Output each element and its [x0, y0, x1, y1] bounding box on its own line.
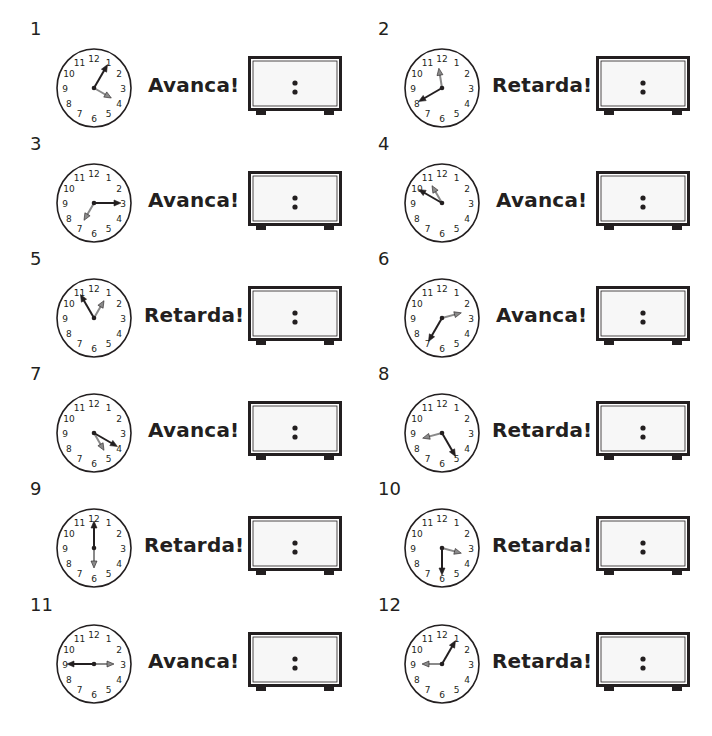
analog-clock-icon: 121234567891011	[400, 506, 484, 590]
clock-numeral: 4	[116, 675, 122, 685]
clock-numeral: 9	[410, 429, 416, 439]
clock-numeral: 3	[468, 429, 474, 439]
clock-numeral: 3	[468, 660, 474, 670]
exercise-item: 5121234567891011Retarda!	[0, 248, 356, 364]
clock-numeral: 12	[436, 630, 447, 640]
clock-numeral: 8	[414, 559, 420, 569]
clock-numeral: 4	[464, 214, 470, 224]
clock-numeral: 3	[468, 84, 474, 94]
clock-numeral: 2	[116, 184, 122, 194]
exercise-number: 12	[378, 594, 401, 615]
clock-numeral: 2	[464, 645, 470, 655]
clock-numeral: 4	[464, 559, 470, 569]
clock-numeral: 7	[77, 569, 83, 579]
digital-time-answer-box[interactable]	[248, 401, 342, 465]
clock-numeral: 2	[116, 69, 122, 79]
exercise-number: 1	[30, 18, 41, 39]
clock-numeral: 11	[422, 173, 433, 183]
clock-numeral: 10	[63, 299, 75, 309]
clock-numeral: 6	[91, 114, 97, 124]
clock-numeral: 12	[88, 54, 99, 64]
clock-numeral: 4	[116, 444, 122, 454]
clock-numeral: 4	[464, 99, 470, 109]
exercise-number: 11	[30, 594, 53, 615]
clock-numeral: 7	[425, 569, 431, 579]
instruction-label: Retarda!	[492, 533, 592, 557]
clock-numeral: 8	[66, 214, 72, 224]
clock-numeral: 5	[454, 569, 460, 579]
exercise-number: 3	[30, 133, 41, 154]
clock-numeral: 11	[74, 173, 85, 183]
clock-numeral: 5	[454, 685, 460, 695]
clock-numeral: 3	[120, 544, 126, 554]
clock-numeral: 11	[422, 518, 433, 528]
analog-clock-icon: 121234567891011	[400, 276, 484, 360]
clock-numeral: 1	[106, 518, 112, 528]
digital-time-answer-box[interactable]	[596, 286, 690, 350]
clock-numeral: 9	[62, 544, 68, 554]
digital-time-answer-box[interactable]	[596, 632, 690, 696]
clock-numeral: 12	[436, 169, 447, 179]
clock-numeral: 10	[63, 645, 75, 655]
clock-numeral: 4	[464, 329, 470, 339]
exercise-number: 2	[378, 18, 389, 39]
clock-numeral: 11	[422, 288, 433, 298]
clock-numeral: 6	[439, 459, 445, 469]
clock-numeral: 6	[439, 114, 445, 124]
exercise-item: 9121234567891011Retarda!	[0, 478, 356, 594]
exercise-item: 3121234567891011Avanca!	[0, 133, 356, 249]
clock-numeral: 5	[106, 454, 112, 464]
clock-numeral: 6	[439, 690, 445, 700]
digital-time-answer-box[interactable]	[248, 516, 342, 580]
clock-numeral: 8	[414, 214, 420, 224]
clock-numeral: 7	[425, 454, 431, 464]
clock-numeral: 4	[464, 444, 470, 454]
digital-time-answer-box[interactable]	[596, 401, 690, 465]
clock-numeral: 10	[63, 529, 75, 539]
clock-numeral: 1	[454, 288, 460, 298]
clock-numeral: 9	[410, 660, 416, 670]
clock-numeral: 10	[63, 69, 75, 79]
digital-time-answer-box[interactable]	[248, 171, 342, 235]
clock-numeral: 4	[116, 329, 122, 339]
clock-numeral: 1	[454, 173, 460, 183]
clock-numeral: 4	[116, 99, 122, 109]
digital-time-answer-box[interactable]	[248, 56, 342, 120]
digital-time-answer-box[interactable]	[596, 516, 690, 580]
clock-numeral: 2	[464, 69, 470, 79]
exercise-item: 4121234567891011Avanca!	[348, 133, 704, 249]
clock-numeral: 11	[74, 518, 85, 528]
digital-time-answer-box[interactable]	[596, 56, 690, 120]
analog-clock-icon: 121234567891011	[52, 391, 136, 475]
clock-numeral: 6	[439, 344, 445, 354]
analog-clock-icon: 121234567891011	[52, 506, 136, 590]
clock-numeral: 10	[411, 299, 423, 309]
clock-numeral: 2	[464, 414, 470, 424]
exercise-number: 8	[378, 363, 389, 384]
clock-numeral: 11	[74, 403, 85, 413]
exercise-item: 2121234567891011Retarda!	[348, 18, 704, 134]
clock-numeral: 9	[62, 660, 68, 670]
clock-numeral: 5	[106, 224, 112, 234]
clock-numeral: 10	[411, 529, 423, 539]
digital-time-answer-box[interactable]	[596, 171, 690, 235]
clock-numeral: 3	[120, 199, 126, 209]
clock-numeral: 8	[66, 99, 72, 109]
clock-numeral: 3	[120, 660, 126, 670]
exercise-number: 6	[378, 248, 389, 269]
digital-time-answer-box[interactable]	[248, 632, 342, 696]
digital-time-answer-box[interactable]	[248, 286, 342, 350]
instruction-label: Avanca!	[496, 303, 587, 327]
clock-numeral: 8	[66, 444, 72, 454]
clock-numeral: 1	[106, 403, 112, 413]
exercise-number: 4	[378, 133, 389, 154]
clock-numeral: 7	[77, 109, 83, 119]
clock-numeral: 1	[454, 403, 460, 413]
clock-numeral: 2	[464, 184, 470, 194]
instruction-label: Retarda!	[492, 73, 592, 97]
analog-clock-icon: 121234567891011	[52, 276, 136, 360]
clock-numeral: 8	[66, 329, 72, 339]
analog-clock-icon: 121234567891011	[52, 161, 136, 245]
clock-numeral: 2	[464, 299, 470, 309]
clock-numeral: 12	[88, 630, 99, 640]
